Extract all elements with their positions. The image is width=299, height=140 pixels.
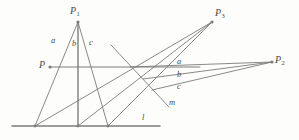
- line-label-l: l: [142, 113, 144, 122]
- point-marker-tick-l-b: [77, 125, 80, 128]
- line-label-b-left: b: [72, 39, 76, 48]
- point-marker-tick-l-c: [107, 125, 110, 128]
- point-label-base-P: P: [39, 59, 45, 70]
- point-markers-group: [34, 20, 274, 127]
- geometry-figure: [0, 0, 299, 140]
- line-label-a-right: a: [177, 57, 181, 66]
- point-label-subscript-P1: 1: [76, 10, 79, 17]
- line-label-c-left: c: [89, 38, 93, 47]
- segment-b-l-to-P3: [78, 22, 212, 126]
- point-label-P1: P1: [70, 6, 79, 16]
- point-marker-P: [48, 65, 51, 68]
- point-marker-P3: [210, 20, 213, 23]
- segment-c-P1-to-l: [78, 22, 108, 126]
- point-label-P3: P3: [215, 8, 224, 18]
- point-marker-P2: [270, 60, 273, 63]
- line-label-c-right: c: [177, 82, 181, 91]
- point-label-subscript-P3: 3: [221, 12, 224, 19]
- point-label-subscript-P2: 2: [281, 59, 284, 66]
- point-label-P2: P2: [275, 55, 284, 65]
- diagram-canvas: P1P3P2Pabcabcml: [0, 0, 299, 140]
- segment-c-to-P2: [152, 62, 272, 90]
- line-label-m: m: [169, 98, 175, 107]
- point-marker-P1: [76, 20, 79, 23]
- line-label-b-right: b: [177, 70, 181, 79]
- line-label-a-left: a: [51, 36, 55, 45]
- point-marker-tick-l-a: [34, 125, 37, 128]
- point-label-P: P: [39, 60, 45, 70]
